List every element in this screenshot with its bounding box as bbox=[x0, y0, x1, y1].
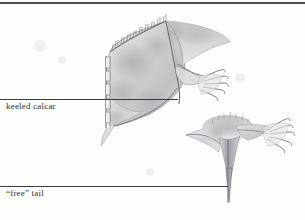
top-rule-divider bbox=[0, 2, 305, 4]
label-free-tail: “free” tail bbox=[6, 188, 44, 198]
leader-line-keeled-calcar bbox=[0, 99, 178, 100]
lower-figure-group bbox=[186, 112, 294, 203]
upper-figure-group bbox=[101, 14, 230, 146]
upper-foot bbox=[201, 70, 225, 97]
lower-foot-claws bbox=[283, 119, 294, 153]
label-keeled-calcar: keeled calcar bbox=[6, 101, 56, 111]
lower-foot bbox=[267, 119, 291, 149]
leader-line-free-tail bbox=[0, 186, 228, 187]
calcar-structure bbox=[106, 56, 111, 128]
upper-foot-claws bbox=[216, 70, 228, 101]
figure-container: keeled calcar “free” tail bbox=[0, 0, 305, 220]
